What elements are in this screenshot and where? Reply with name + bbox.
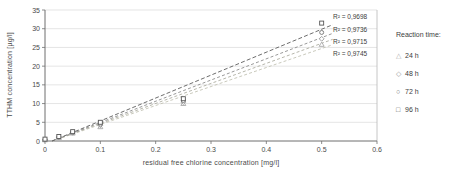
svg-text:0.6: 0.6 [372,146,382,153]
circle-marker-icon: ○ [396,87,405,96]
svg-text:20: 20 [32,63,40,70]
legend-label-72h: 72 h [405,88,419,95]
legend-item-72h: ○72 h [396,87,441,96]
svg-text:25: 25 [32,44,40,51]
svg-text:35: 35 [32,7,40,14]
legend-item-96h: □96 h [396,105,441,114]
svg-text:0.4: 0.4 [261,146,271,153]
tthm-chlorine-chart-figure: 0510152025303500.10.20.30.40.50.6 TTHM c… [0,0,462,183]
legend-label-24h: 24 h [405,52,419,59]
triangle-marker-icon: △ [396,51,405,60]
legend-item-48h: ◇48 h [396,69,441,78]
svg-text:10: 10 [32,100,40,107]
svg-text:5: 5 [36,119,40,126]
diamond-marker-icon: ◇ [396,69,405,78]
r2-annotation-72h: R² = 0,9736 [333,26,367,33]
y-axis-title: TTHM concentration [µg/l] [6,32,13,118]
svg-text:0: 0 [36,138,40,145]
svg-text:0.3: 0.3 [206,146,216,153]
legend-label-48h: 48 h [405,70,419,77]
legend-label-96h: 96 h [405,106,419,113]
svg-text:0.5: 0.5 [317,146,327,153]
legend-title: Reaction time: [396,31,441,38]
svg-text:30: 30 [32,25,40,32]
legend: Reaction time: △24 h ◇48 h ○72 h □96 h [396,31,441,123]
r2-annotation-48h: R² = 0,9715 [333,38,367,45]
svg-text:0.2: 0.2 [151,146,161,153]
scatter-plot-canvas: 0510152025303500.10.20.30.40.50.6 [0,0,462,183]
x-axis-title: residual free chlorine concentration [mg… [45,159,377,166]
r2-annotation-24h: R² = 0,9745 [333,50,367,57]
svg-text:15: 15 [32,81,40,88]
r2-annotation-96h: R² = 0,9698 [333,13,367,20]
svg-text:0: 0 [43,146,47,153]
square-marker-icon: □ [396,105,405,114]
legend-item-24h: △24 h [396,51,441,60]
svg-text:0.1: 0.1 [95,146,105,153]
